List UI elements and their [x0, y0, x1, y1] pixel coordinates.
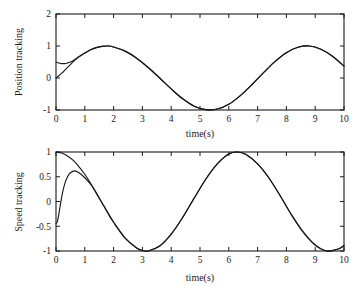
x-tick-label: 4 [169, 114, 174, 124]
y-tick-label: -0.5 [36, 222, 51, 232]
position-x-axis-title: time(s) [186, 128, 214, 140]
data-series-reference [56, 46, 344, 110]
y-tick-label: 0 [46, 73, 51, 83]
speed-data-curves [56, 152, 344, 251]
position-x-tick-labels: 012345678910 [54, 114, 349, 124]
y-tick-label: -1 [43, 105, 51, 115]
y-tick-label: 2 [46, 9, 51, 19]
position-tracking-plot: 012345678910 -1012 time(s) Position trac… [0, 0, 359, 145]
position-tick-marks [56, 14, 344, 110]
figure-container: 012345678910 -1012 time(s) Position trac… [0, 0, 359, 287]
x-tick-label: 0 [54, 114, 59, 124]
y-tick-label: 0 [46, 197, 51, 207]
x-tick-label: 7 [255, 255, 260, 265]
x-tick-label: 10 [339, 255, 349, 265]
x-tick-label: 5 [198, 255, 203, 265]
x-tick-label: 9 [313, 255, 318, 265]
x-tick-label: 6 [226, 255, 231, 265]
speed-axes [56, 152, 344, 251]
x-tick-label: 5 [198, 114, 203, 124]
position-y-axis-title: Position tracking [13, 28, 24, 96]
speed-tracking-plot: 012345678910 -1-0.500.51 time(s) Speed t… [0, 142, 359, 287]
chart-panel-speed-tracking: 012345678910 -1-0.500.51 time(s) Speed t… [0, 142, 359, 287]
speed-x-axis-title: time(s) [186, 272, 214, 284]
data-series-reference [56, 152, 344, 251]
x-tick-label: 8 [284, 114, 289, 124]
chart-panel-position-tracking: 012345678910 -1012 time(s) Position trac… [0, 0, 359, 145]
y-tick-label: 1 [46, 41, 51, 51]
x-tick-label: 8 [284, 255, 289, 265]
speed-y-axis-title: Speed tracking [13, 172, 24, 232]
y-tick-label: 1 [46, 147, 51, 157]
x-tick-label: 1 [82, 255, 87, 265]
data-series-tracking [56, 46, 344, 110]
x-tick-label: 10 [339, 114, 349, 124]
y-tick-label: -1 [43, 246, 51, 256]
x-tick-label: 2 [111, 114, 116, 124]
x-tick-label: 4 [169, 255, 174, 265]
x-tick-label: 6 [226, 114, 231, 124]
x-tick-label: 3 [140, 255, 145, 265]
speed-y-tick-labels: -1-0.500.51 [36, 147, 51, 256]
x-tick-label: 1 [82, 114, 87, 124]
x-tick-label: 2 [111, 255, 116, 265]
speed-tick-marks [56, 152, 344, 251]
speed-x-tick-labels: 012345678910 [54, 255, 349, 265]
x-tick-label: 3 [140, 114, 145, 124]
position-axes [56, 14, 344, 110]
position-y-tick-labels: -1012 [43, 9, 51, 115]
data-series-tracking [56, 152, 344, 251]
position-data-curves [56, 46, 344, 110]
x-tick-label: 0 [54, 255, 59, 265]
x-tick-label: 9 [313, 114, 318, 124]
y-tick-label: 0.5 [39, 172, 51, 182]
x-tick-label: 7 [255, 114, 260, 124]
